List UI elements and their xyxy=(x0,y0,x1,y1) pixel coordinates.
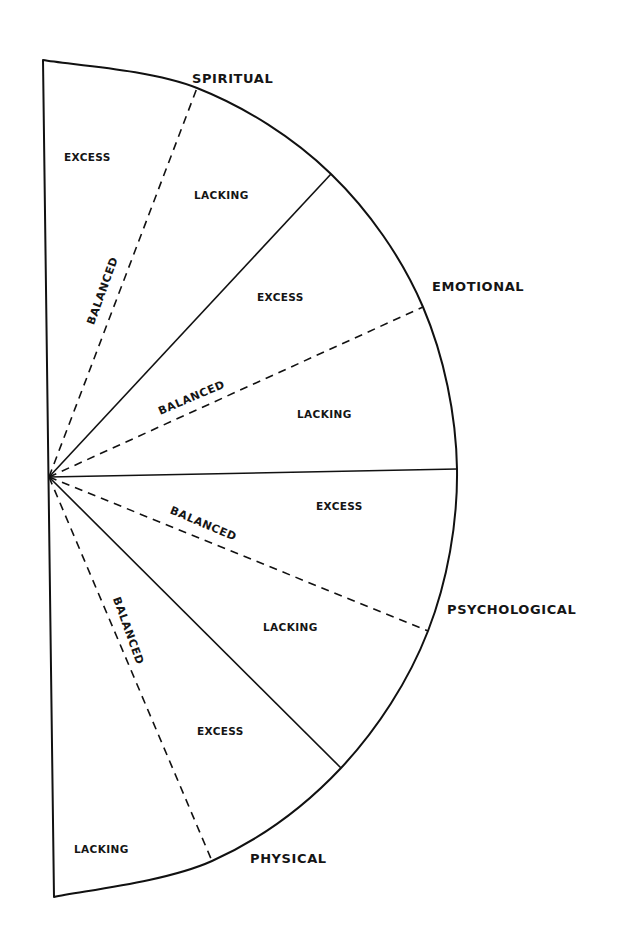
zone-label-physical-excess: EXCESS xyxy=(197,725,244,737)
balanced-dashed-lines xyxy=(49,88,428,861)
balanced-dashed-line xyxy=(49,307,423,477)
solid-divider-line xyxy=(49,469,457,477)
balanced-label-psychological: BALANCED xyxy=(168,504,239,544)
zone-label-emotional-lacking: LACKING xyxy=(297,408,352,420)
half-circle-outline xyxy=(43,60,457,897)
balanced-label-physical: BALANCED xyxy=(110,595,147,666)
zone-label-psychological-lacking: LACKING xyxy=(263,621,318,633)
balanced-dashed-line xyxy=(49,88,197,477)
balanced-labels: BALANCED BALANCED BALANCED BALANCED xyxy=(84,255,238,666)
zone-label-emotional-excess: EXCESS xyxy=(257,291,304,303)
dimension-label-physical: PHYSICAL xyxy=(250,851,327,866)
dimension-label-spiritual: SPIRITUAL xyxy=(192,71,273,86)
balanced-dashed-line xyxy=(49,477,212,861)
balance-wheel-diagram: SPIRITUAL EMOTIONAL PSYCHOLOGICAL PHYSIC… xyxy=(0,0,619,949)
zone-label-psychological-excess: EXCESS xyxy=(316,500,363,512)
dimension-label-psychological: PSYCHOLOGICAL xyxy=(447,602,576,617)
balanced-dashed-line xyxy=(49,477,428,631)
dimension-labels: SPIRITUAL EMOTIONAL PSYCHOLOGICAL PHYSIC… xyxy=(192,71,576,866)
dimension-label-emotional: EMOTIONAL xyxy=(432,279,524,294)
zone-label-physical-lacking: LACKING xyxy=(74,843,129,855)
zone-label-spiritual-lacking: LACKING xyxy=(194,189,249,201)
zone-label-spiritual-excess: EXCESS xyxy=(64,151,111,163)
balanced-label-spiritual: BALANCED xyxy=(84,255,121,326)
